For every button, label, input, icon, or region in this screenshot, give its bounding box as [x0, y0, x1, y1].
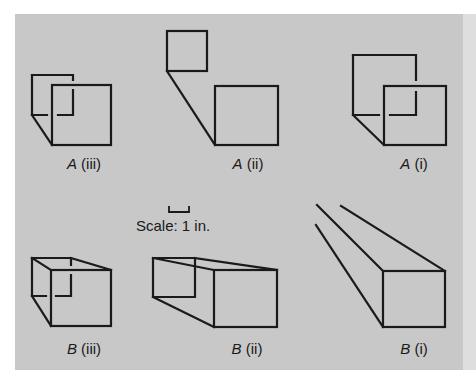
scale-bar	[169, 207, 189, 212]
label-b-i: B (i)	[400, 340, 428, 357]
label-a-iii: A (iii)	[67, 155, 101, 172]
drawing-a-ii	[167, 31, 278, 145]
drawing-a-iii	[32, 75, 111, 145]
drawing-b-i	[316, 205, 445, 327]
perspective-drawings	[0, 0, 476, 382]
scale-label: Scale: 1 in.	[136, 217, 210, 234]
label-b-ii: B (ii)	[232, 340, 263, 357]
label-a-ii: A (ii)	[233, 155, 264, 172]
label-a-i: A (i)	[400, 155, 428, 172]
drawing-b-ii	[153, 258, 277, 327]
drawing-a-i	[353, 55, 446, 145]
label-b-iii: B (iii)	[67, 340, 101, 357]
drawing-b-iii	[32, 258, 111, 326]
